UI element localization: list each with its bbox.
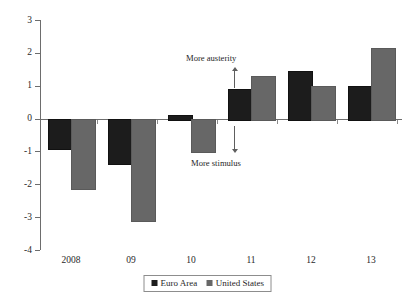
legend-label: Euro Area: [161, 279, 198, 288]
y-tick-label: -3: [24, 213, 32, 223]
y-tick-mark: [35, 184, 40, 185]
y-tick-mark: [35, 20, 40, 21]
annotation-more-stimulus: More stimulus: [191, 159, 241, 168]
bar-euro-09[interactable]: [108, 119, 133, 165]
y-tick-label: -1: [24, 147, 32, 157]
bar-euro-10[interactable]: [168, 115, 193, 120]
y-tick-mark: [35, 86, 40, 87]
legend-item-euro-area[interactable]: Euro Area: [151, 279, 197, 288]
plot-area: 3 2 1 0 -1 -2 -3 -4: [40, 20, 402, 250]
y-axis-line: [40, 20, 41, 250]
y-tick-mark: [35, 217, 40, 218]
annotation-more-austerity: More austerity: [186, 54, 236, 63]
bar-euro-13[interactable]: [348, 86, 373, 121]
y-tick-label: 2: [27, 49, 32, 59]
y-tick-label: -4: [24, 246, 32, 256]
legend-swatch-icon: [151, 280, 157, 286]
x-label-09: 09: [126, 256, 136, 266]
baseline-tick: [97, 120, 98, 124]
y-tick-label: 1: [27, 81, 32, 91]
x-label-11: 11: [246, 256, 255, 266]
baseline-tick: [397, 120, 398, 124]
y-tick-mark: [35, 250, 40, 251]
austerity-arrow-line: [234, 71, 235, 88]
baseline-tick: [277, 120, 278, 124]
bar-euro-2008[interactable]: [48, 119, 73, 151]
stimulus-arrow-line: [234, 126, 235, 150]
y-tick-mark: [35, 53, 40, 54]
bar-us-2008[interactable]: [71, 119, 96, 190]
legend-label: United States: [216, 279, 264, 288]
bar-us-13[interactable]: [371, 48, 396, 121]
y-tick-label: 0: [27, 114, 32, 124]
bar-us-09[interactable]: [131, 119, 156, 223]
x-label-2008: 2008: [62, 256, 81, 266]
y-tick-label: 3: [27, 16, 32, 26]
baseline-tick: [337, 120, 338, 124]
arrow-up-icon: [232, 67, 238, 71]
bar-chart: 3 2 1 0 -1 -2 -3 -4: [0, 0, 415, 306]
x-label-12: 12: [306, 256, 316, 266]
baseline-tick: [217, 120, 218, 124]
legend-swatch-icon: [206, 280, 212, 286]
y-tick-mark: [35, 151, 40, 152]
bar-euro-12[interactable]: [288, 71, 313, 121]
y-tick-label: -2: [24, 180, 32, 190]
bar-us-12[interactable]: [311, 86, 336, 121]
bar-us-10[interactable]: [191, 119, 216, 154]
bar-euro-11[interactable]: [228, 89, 253, 121]
arrow-down-icon: [232, 149, 238, 153]
chart-legend: Euro Area United States: [143, 275, 272, 292]
bar-us-11[interactable]: [251, 76, 276, 121]
x-label-13: 13: [366, 256, 376, 266]
baseline-tick: [157, 120, 158, 124]
legend-item-united-states[interactable]: United States: [206, 279, 264, 288]
x-label-10: 10: [186, 256, 196, 266]
